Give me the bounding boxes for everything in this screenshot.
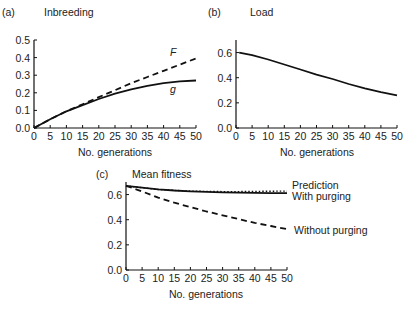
- x-tick-label: 15: [77, 130, 89, 142]
- y-tick-label: 0.2: [217, 97, 232, 109]
- x-tick-label: 5: [139, 272, 145, 284]
- y-tick-label: 0.0: [107, 264, 122, 276]
- x-tick-label: 30: [327, 130, 339, 142]
- legend-with-purging: With purging: [292, 190, 351, 202]
- x-tick-label: 50: [190, 130, 202, 142]
- x-axis-title: No. generations: [169, 288, 243, 300]
- panel-title: Mean fitness: [132, 168, 192, 180]
- x-tick-label: 10: [262, 130, 274, 142]
- x-axis-title: No. generations: [78, 146, 152, 158]
- x-tick-label: 40: [158, 130, 170, 142]
- x-tick-label: 10: [152, 272, 164, 284]
- x-tick-label: 25: [311, 130, 323, 142]
- y-tick-label: 0.4: [15, 52, 30, 64]
- x-tick-label: 15: [168, 272, 180, 284]
- y-tick-label: 0.3: [15, 69, 30, 81]
- legend-without-purging: Without purging: [294, 224, 368, 236]
- x-tick-label: 25: [201, 272, 213, 284]
- x-tick-label: 30: [125, 130, 137, 142]
- x-tick-label: 5: [249, 130, 255, 142]
- x-tick-label: 40: [249, 272, 261, 284]
- x-tick-label: 15: [278, 130, 290, 142]
- panel-label: (c): [96, 168, 108, 180]
- x-tick-label: 0: [233, 130, 239, 142]
- y-tick-label: 0.6: [217, 47, 232, 59]
- plot-lines: [126, 186, 287, 229]
- y-tick-label: 0.5: [15, 34, 30, 46]
- panel-title: Inbreeding: [44, 6, 94, 18]
- panel-inbreeding: (a) Inbreeding 051015202530354045500.00.…: [2, 6, 202, 158]
- x-axis-title: No. generations: [280, 146, 354, 158]
- y-tick-label: 0.4: [107, 214, 122, 226]
- x-tick-label: 45: [375, 130, 387, 142]
- axes: 051015202530354045500.00.20.40.6: [107, 182, 293, 284]
- panel-title: Load: [250, 6, 274, 18]
- y-tick-label: 0.0: [217, 122, 232, 134]
- x-tick-label: 45: [174, 130, 186, 142]
- series-label-F: F: [170, 46, 177, 58]
- x-tick-label: 20: [185, 272, 197, 284]
- y-tick-label: 0.4: [217, 72, 232, 84]
- x-tick-label: 0: [123, 272, 129, 284]
- y-tick-label: 0.1: [15, 104, 30, 116]
- panel-label: (a): [2, 6, 15, 18]
- x-tick-label: 45: [265, 272, 277, 284]
- x-tick-label: 40: [359, 130, 371, 142]
- x-tick-label: 35: [142, 130, 154, 142]
- plot-lines: [239, 53, 397, 96]
- series-load: [239, 53, 397, 96]
- series-label-g: g: [170, 83, 176, 95]
- x-tick-label: 20: [295, 130, 307, 142]
- x-tick-label: 35: [343, 130, 355, 142]
- figure: (a) Inbreeding 051015202530354045500.00.…: [0, 0, 412, 314]
- x-tick-label: 20: [93, 130, 105, 142]
- x-tick-label: 30: [217, 272, 229, 284]
- y-tick-label: 0.0: [15, 122, 30, 134]
- x-tick-label: 0: [31, 130, 37, 142]
- x-tick-label: 35: [233, 272, 245, 284]
- y-tick-label: 0.6: [107, 189, 122, 201]
- x-tick-label: 50: [281, 272, 293, 284]
- y-tick-label: 0.2: [15, 87, 30, 99]
- panel-load: (b) Load 051015202530354045500.00.20.40.…: [208, 6, 403, 158]
- panel-label: (b): [208, 6, 221, 18]
- x-tick-label: 10: [61, 130, 73, 142]
- x-tick-label: 50: [391, 130, 403, 142]
- x-tick-label: 25: [109, 130, 121, 142]
- series-with-purging: [126, 186, 287, 193]
- y-tick-label: 0.2: [107, 239, 122, 251]
- panel-mean-fitness: (c) Mean fitness 051015202530354045500.0…: [96, 168, 368, 300]
- x-tick-label: 5: [47, 130, 53, 142]
